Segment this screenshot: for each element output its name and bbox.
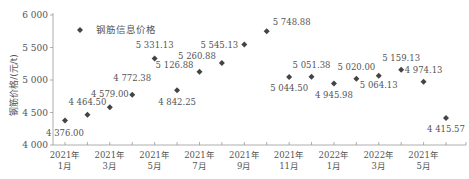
data-point-label: 4 945.98 xyxy=(315,90,353,100)
y-axis-title: 钢筋价格/(元/t) xyxy=(8,54,19,116)
x-tick-month: 5月 xyxy=(416,161,430,171)
data-point-marker xyxy=(398,67,404,73)
data-point-marker xyxy=(196,69,202,75)
legend: 钢筋信息价格 xyxy=(77,24,156,35)
x-tick-year: 2022年 xyxy=(319,150,350,160)
legend-marker-icon xyxy=(77,27,83,33)
x-tick-year: 2021年 xyxy=(50,150,81,160)
x-tick-year: 2021年 xyxy=(408,150,439,160)
data-point-marker xyxy=(84,112,90,118)
x-tick-year: 2021年 xyxy=(139,150,170,160)
data-point-label: 5 748.88 xyxy=(273,17,311,27)
y-tick-label: 4 000 xyxy=(22,140,48,150)
legend-label: 钢筋信息价格 xyxy=(96,24,156,35)
y-tick-label: 5 500 xyxy=(22,43,48,53)
data-point-marker xyxy=(264,28,270,34)
data-point-label: 5 545.13 xyxy=(200,40,238,50)
data-point-marker xyxy=(129,92,135,98)
data-point-label: 4 772.38 xyxy=(113,73,151,83)
data-point-marker xyxy=(62,118,68,124)
x-tick-month: 3月 xyxy=(372,161,386,171)
x-tick-month: 11月 xyxy=(279,161,299,171)
x-axis: 2021年1月2021年3月2021年5月2021年7月2021年9月2021年… xyxy=(50,142,466,171)
data-point-label: 5 051.38 xyxy=(293,60,331,70)
x-tick-year: 2021年 xyxy=(274,150,305,160)
x-tick-month: 7月 xyxy=(192,161,206,171)
data-point-marker xyxy=(241,42,247,48)
data-point-marker xyxy=(219,60,225,66)
data-point-marker xyxy=(107,104,113,110)
x-tick-year: 2021年 xyxy=(229,150,260,160)
data-point-label: 4 376.00 xyxy=(46,128,84,138)
data-point-marker xyxy=(421,79,427,85)
data-point-label: 4 415.57 xyxy=(427,124,465,134)
data-points: 4 376.004 464.504 579.004 772.385 331.13… xyxy=(46,17,465,137)
data-point-label: 5 126.88 xyxy=(156,60,194,70)
data-point-marker xyxy=(309,74,315,80)
data-point-label: 5 159.13 xyxy=(382,53,420,63)
data-point-marker xyxy=(353,76,359,82)
x-tick-month: 1月 xyxy=(58,161,72,171)
data-point-label: 5 260.88 xyxy=(178,51,216,61)
data-point-label: 4 842.25 xyxy=(158,97,196,107)
x-tick-month: 9月 xyxy=(237,161,251,171)
scatter-chart: 4 0004 5005 0005 5006 000 2021年1月2021年3月… xyxy=(0,0,469,179)
data-point-label: 5 331.13 xyxy=(136,40,174,50)
data-point-marker xyxy=(331,81,337,87)
x-tick-month: 1月 xyxy=(327,161,341,171)
y-tick-label: 5 000 xyxy=(22,75,48,85)
data-point-label: 5 064.13 xyxy=(360,80,398,90)
data-point-label: 4 974.13 xyxy=(405,65,443,75)
y-tick-label: 4 500 xyxy=(22,108,48,118)
x-tick-year: 2021年 xyxy=(95,150,126,160)
data-point-label: 5 020.00 xyxy=(337,62,375,72)
data-point-label: 5 044.50 xyxy=(270,83,308,93)
x-tick-month: 3月 xyxy=(103,161,117,171)
x-tick-year: 2021年 xyxy=(184,150,215,160)
data-point-label: 4 579.00 xyxy=(91,89,129,99)
y-tick-label: 6 000 xyxy=(22,10,48,20)
data-point-marker xyxy=(174,87,180,93)
x-tick-year: 2022年 xyxy=(363,150,394,160)
x-tick-month: 5月 xyxy=(147,161,161,171)
data-point-marker xyxy=(376,73,382,79)
data-point-marker xyxy=(286,74,292,80)
data-point-marker xyxy=(443,115,449,121)
